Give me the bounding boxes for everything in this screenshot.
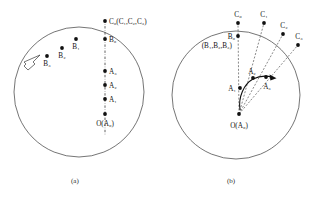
point-B2 [60,46,64,50]
point-B3 [45,54,49,58]
label-O: O(A₀) [96,120,114,128]
label-B0: B₀ [228,33,236,41]
panel-b-circle [172,31,300,159]
panel-b-points [236,21,300,116]
label-A3: A₃ [263,83,271,91]
panel-a-points [45,19,107,116]
label-O: O(A₀) [230,122,248,130]
panel-a-flow-arrow [24,55,40,70]
point-B0 [103,37,107,41]
label-B-group: (B₁,B₂,B₃) [202,42,233,50]
point-O [103,112,107,116]
point-C3 [296,43,300,47]
point-A2 [103,83,107,87]
point-C1 [262,21,266,25]
point-A1 [238,86,242,90]
label-A3: A₃ [109,68,117,76]
caption-panel-b: (b) [227,177,235,185]
point-C0 [236,21,240,25]
panel-a: C₀(C₁,C₂,C₃) B₀ B₁ B₂ B₃ A₃ A₂ A₁ O(A₀) [14,18,147,158]
panel-b-rays [238,23,298,114]
ray-C3 [239,45,298,114]
label-A2: A₂ [109,82,117,90]
label-C2: C₂ [280,22,288,30]
point-B1 [74,37,78,41]
label-C1: C₁ [260,11,268,19]
caption-panel-a: (a) [71,177,79,185]
label-C0: C₀(C₁,C₂,C₃) [109,18,147,26]
label-C3: C₃ [295,33,303,41]
figure-canvas: C₀(C₁,C₂,C₃) B₀ B₁ B₂ B₃ A₃ A₂ A₁ O(A₀) [0,0,318,197]
point-A3 [264,75,268,79]
point-A3 [103,69,107,73]
panel-b: C₀ C₁ C₂ C₃ B₀ (B₁,B₂,B₃) A₁ A₂ A₃ O(A₀) [172,11,303,159]
label-B1: B₁ [72,43,80,51]
label-A2: A₂ [248,68,256,76]
point-B0 [236,34,240,38]
label-A1: A₁ [228,85,236,93]
point-A1 [103,97,107,101]
point-A2 [251,76,255,80]
label-B2: B₂ [58,52,66,60]
label-B0: B₀ [109,36,117,44]
ray-C2 [239,34,283,114]
point-C2 [281,32,285,36]
point-C0 [103,19,107,23]
label-C0: C₀ [234,11,242,19]
label-A1: A₁ [109,96,117,104]
label-B3: B₃ [43,60,51,68]
point-O [237,112,241,116]
